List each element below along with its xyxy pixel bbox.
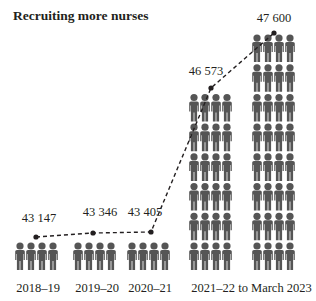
person-icon [252, 124, 262, 152]
person-icon [285, 124, 295, 152]
person-icon [200, 153, 210, 181]
person-icon [200, 183, 210, 211]
person-icon [274, 64, 284, 92]
person-icon [160, 242, 170, 270]
category-label-2018-19: 2018–19 [16, 281, 60, 296]
person-icon [274, 242, 284, 270]
person-icon [252, 213, 262, 241]
person-icon [222, 94, 232, 122]
person-icon [263, 64, 273, 92]
person-icon [189, 153, 199, 181]
person-icon [73, 242, 83, 270]
person-icon [274, 153, 284, 181]
pictogram-chart [0, 0, 316, 301]
person-icon [274, 94, 284, 122]
person-icon [263, 213, 273, 241]
person-icon [274, 183, 284, 211]
person-icon [263, 124, 273, 152]
person-icon [263, 94, 273, 122]
person-icon [189, 242, 199, 270]
person-icon [285, 213, 295, 241]
pictogram-groups [15, 35, 295, 271]
data-point-3 [208, 85, 213, 90]
person-icon [252, 64, 262, 92]
person-icon [274, 213, 284, 241]
person-icon [252, 242, 262, 270]
person-icon [200, 94, 210, 122]
person-icon [222, 242, 232, 270]
value-label-march-2023: 47 600 [257, 11, 291, 26]
person-icon [48, 242, 58, 270]
person-icon [211, 94, 221, 122]
data-point-4 [271, 30, 276, 35]
data-point-0 [33, 234, 38, 239]
person-icon [222, 124, 232, 152]
category-label-2020-21: 2020–21 [128, 281, 172, 296]
person-icon [252, 153, 262, 181]
value-label-2018-19: 43 147 [22, 211, 56, 226]
person-icon [37, 242, 47, 270]
person-icon [200, 242, 210, 270]
category-label-2019-20: 2019–20 [75, 281, 119, 296]
person-icon [222, 153, 232, 181]
person-icon [222, 183, 232, 211]
person-icon [26, 242, 36, 270]
person-icon [285, 183, 295, 211]
person-icon [222, 213, 232, 241]
person-icon [285, 242, 295, 270]
person-icon [211, 124, 221, 152]
person-icon [285, 35, 295, 63]
person-icon [285, 94, 295, 122]
person-icon [211, 242, 221, 270]
person-icon [127, 242, 137, 270]
person-icon [211, 183, 221, 211]
person-icon [211, 213, 221, 241]
person-icon [200, 124, 210, 152]
person-icon [189, 213, 199, 241]
person-icon [200, 213, 210, 241]
value-label-2019-20: 43 346 [83, 205, 117, 220]
person-icon [285, 64, 295, 92]
person-icon [263, 153, 273, 181]
category-label-march-2023: to March 2023 [238, 281, 312, 296]
value-label-2021-22: 46 573 [189, 64, 223, 79]
value-label-2020-21: 43 405 [128, 205, 162, 220]
data-point-1 [90, 230, 95, 235]
person-icon [189, 183, 199, 211]
person-icon [189, 94, 199, 122]
person-icon [95, 242, 105, 270]
person-icon [263, 183, 273, 211]
person-icon [274, 35, 284, 63]
person-icon [274, 124, 284, 152]
person-icon [15, 242, 25, 270]
person-icon [106, 242, 116, 270]
person-icon [149, 242, 159, 270]
person-icon [138, 242, 148, 270]
person-icon [263, 242, 273, 270]
data-point-2 [148, 229, 153, 234]
person-icon [252, 94, 262, 122]
person-icon [285, 153, 295, 181]
category-label-2021-22: 2021–22 [191, 281, 235, 296]
person-icon [252, 183, 262, 211]
person-icon [84, 242, 94, 270]
person-icon [211, 153, 221, 181]
